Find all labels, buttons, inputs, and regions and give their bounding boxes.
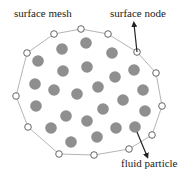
fluid-particle: [81, 61, 93, 73]
surface-mesh-label: surface mesh: [14, 8, 72, 19]
fluid-particles-group: [29, 37, 151, 148]
fluid-particle: [91, 131, 103, 143]
surface-node-label: surface node: [110, 8, 166, 19]
fluid-particle: [32, 55, 44, 67]
fluid-particle: [137, 84, 149, 96]
fluid-particle: [97, 103, 109, 115]
fluid-particle-label: fluid particle: [121, 158, 178, 169]
fluid-particle: [106, 47, 118, 59]
fluid-particle: [56, 43, 68, 55]
fluid-particle-arrow: [137, 132, 147, 156]
fluid-particle: [45, 122, 57, 134]
fluid-particle: [48, 84, 60, 96]
surface-node: [51, 31, 58, 38]
surface-node: [149, 132, 156, 139]
fluid-particle: [65, 136, 77, 148]
surface-node-arrow: [134, 24, 137, 52]
surface-node: [126, 146, 133, 153]
fluid-particle: [139, 105, 151, 117]
surface-node: [78, 26, 85, 33]
surface-node: [153, 70, 160, 77]
fluid-particle: [71, 88, 83, 100]
fluid-particle: [30, 100, 42, 112]
fluid-particle: [80, 37, 92, 49]
surface-node: [25, 124, 32, 131]
fluid-particle: [57, 65, 69, 77]
fluid-particle: [110, 122, 122, 134]
fluid-particle: [60, 110, 72, 122]
fluid-particle: [92, 81, 104, 93]
fluid-particle: [128, 64, 140, 76]
surface-node: [13, 93, 20, 100]
surface-node: [24, 50, 31, 57]
fluid-particle: [129, 121, 141, 133]
surface-node: [56, 151, 63, 158]
particle-mesh-diagram: [0, 0, 192, 177]
surface-node: [105, 31, 112, 38]
fluid-particle: [117, 94, 129, 106]
surface-node: [159, 103, 166, 110]
fluid-particle: [109, 71, 121, 83]
fluid-particle: [81, 115, 93, 127]
surface-node: [91, 152, 98, 159]
fluid-particle: [29, 78, 41, 90]
diagram-canvas: surface mesh surface node fluid particle: [0, 0, 192, 177]
